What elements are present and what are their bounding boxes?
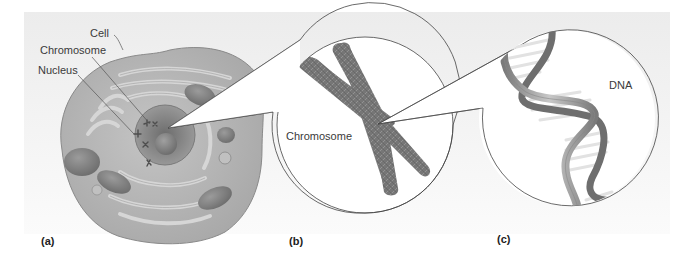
label-nucleus: Nucleus	[38, 65, 78, 76]
cell-to-dna-diagram: Cell Chromosome Nucleus Chromosome DNA (…	[0, 0, 694, 264]
label-chromosome-in-cell: Chromosome	[40, 45, 106, 56]
panel-label-c: (c)	[497, 234, 510, 245]
panel-label-b: (b)	[289, 236, 303, 247]
label-chromosome-zoom: Chromosome	[286, 131, 352, 142]
label-dna: DNA	[609, 80, 632, 91]
panel-label-a: (a)	[41, 236, 54, 247]
cell-illustration	[61, 48, 264, 244]
label-cell: Cell	[90, 28, 109, 39]
